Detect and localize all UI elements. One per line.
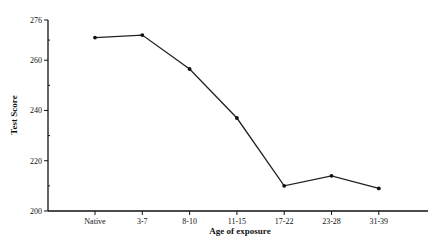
data-point-11-15 <box>235 116 239 120</box>
x-axis-title: Age of exposure <box>209 226 270 236</box>
line-chart: 200220240260276 Native3-78-1011-1517-222… <box>0 0 437 250</box>
x-tick-label: Native <box>84 217 106 226</box>
y-axis: 200220240260276 <box>30 16 50 216</box>
y-tick-label: 220 <box>30 157 42 166</box>
x-tick-label: 11-15 <box>228 217 246 226</box>
y-tick-label: 260 <box>30 56 42 65</box>
x-tick-label: 8-10 <box>182 217 197 226</box>
data-point-23-28 <box>330 174 334 178</box>
x-tick-label: 23-28 <box>322 217 341 226</box>
data-point-3-7 <box>140 33 144 37</box>
y-tick-label: 240 <box>30 106 42 115</box>
x-axis: Native3-78-1011-1517-2223-2831-39 <box>48 211 428 226</box>
y-tick-label: 276 <box>30 16 42 25</box>
series-line <box>95 35 379 188</box>
y-tick-label: 200 <box>30 207 42 216</box>
series-test-score <box>93 33 381 190</box>
x-tick-label: 3-7 <box>137 217 148 226</box>
x-tick-label: 17-22 <box>275 217 294 226</box>
data-point-native <box>93 36 97 40</box>
x-tick-label: 31-39 <box>369 217 388 226</box>
data-point-8-10 <box>188 67 192 71</box>
data-point-31-39 <box>377 186 381 190</box>
data-point-17-22 <box>282 184 286 188</box>
y-axis-title: Test Score <box>9 95 19 134</box>
